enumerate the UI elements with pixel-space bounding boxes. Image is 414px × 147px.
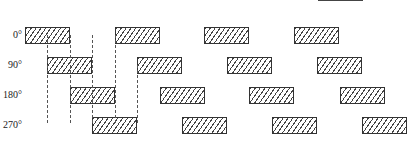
dashed-guide-line (115, 35, 116, 123)
hatched-pulse-box (204, 27, 249, 44)
dashed-guide-line (92, 35, 93, 123)
row-label: 270° (0, 119, 22, 130)
hatched-pulse-box (272, 117, 317, 134)
row-label: 90° (0, 59, 22, 70)
hatched-pulse-box (294, 27, 339, 44)
hatched-pulse-box (182, 117, 227, 134)
hatched-pulse-box (227, 57, 272, 74)
row-label: 180° (0, 89, 22, 100)
hatched-pulse-box (160, 87, 205, 104)
hatched-pulse-box (362, 117, 407, 134)
row-label: 0° (0, 29, 22, 40)
dashed-guide-line (70, 35, 71, 123)
dashed-guide-line (47, 35, 48, 123)
hatched-pulse-box (317, 57, 362, 74)
hatched-pulse-box (115, 27, 160, 44)
dashed-guide-line (137, 65, 138, 123)
hatched-pulse-box (340, 87, 385, 104)
hatched-pulse-box (137, 57, 182, 74)
top-line (318, 0, 363, 1)
hatched-pulse-box (249, 87, 294, 104)
